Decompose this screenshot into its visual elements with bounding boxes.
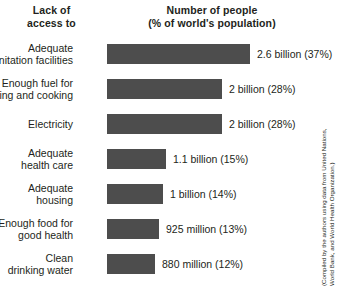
chart-row: Clean drinking water 880 million (12%) (0, 246, 330, 281)
row-label: Enough food for good health (0, 216, 73, 241)
bar-group: 925 million (13%) (107, 219, 247, 239)
bar-group: 1 billion (14%) (107, 184, 237, 204)
row-label: Adequate sanitation facilities (0, 41, 73, 66)
bar (107, 219, 159, 239)
chart-rows: Adequate sanitation facilities 2.6 billi… (0, 36, 330, 281)
row-label-line2: sanitation facilities (0, 54, 73, 66)
row-label-line1: Adequate (28, 41, 73, 53)
row-label-line1: Adequate (28, 181, 73, 193)
value-column-header: Number of people (% of world's populatio… (107, 4, 317, 30)
category-header-line2: access to (27, 17, 76, 29)
row-label: Adequate health care (0, 146, 73, 171)
chart-row: Enough fuel for heating and cooking 2 bi… (0, 71, 330, 106)
bar-value-label: 1 billion (14%) (170, 188, 237, 200)
bar (107, 254, 155, 274)
row-label: Enough fuel for heating and cooking (0, 76, 73, 101)
bar-value-label: 925 million (13%) (166, 223, 247, 235)
bar-value-label: 2 billion (28%) (229, 118, 296, 130)
row-label-line2: housing (36, 194, 73, 206)
bar-group: 2.6 billion (37%) (107, 44, 332, 64)
category-header-line1: Lack of (33, 4, 70, 16)
row-label: Clean drinking water (0, 251, 73, 276)
bar (107, 184, 163, 204)
row-label-line1: Electricity (28, 117, 73, 129)
bar-value-label: 880 million (12%) (162, 258, 243, 270)
chart-header: Lack of access to Number of people (% of… (0, 4, 330, 36)
bar (107, 114, 222, 134)
bar-group: 2 billion (28%) (107, 114, 296, 134)
bar-group: 1.1 billion (15%) (107, 149, 248, 169)
bar (107, 149, 166, 169)
row-label-line1: Enough fuel for (2, 76, 73, 88)
value-header-line1: Number of people (167, 4, 258, 16)
chart-row: Enough food for good health 925 million … (0, 211, 330, 246)
chart-row: Adequate housing 1 billion (14%) (0, 176, 330, 211)
bar-value-label: 1.1 billion (15%) (173, 153, 248, 165)
value-header-line2: (% of world's population) (107, 17, 317, 30)
bar-group: 2 billion (28%) (107, 79, 296, 99)
bar-chart-figure: Lack of access to Number of people (% of… (0, 0, 359, 290)
chart-row: Adequate sanitation facilities 2.6 billi… (0, 36, 330, 71)
row-label-line1: Enough food for (0, 216, 73, 228)
row-label-line2: health care (21, 159, 73, 171)
row-label-line2: drinking water (8, 264, 73, 276)
bar (107, 79, 222, 99)
source-note-line2: World Bank, and World Health Organizatio… (328, 106, 336, 286)
bar (107, 44, 250, 64)
source-note: (Compiled by the authors using data from… (336, 106, 358, 286)
row-label-line2: good health (18, 229, 73, 241)
row-label: Adequate housing (0, 181, 73, 206)
row-label-line1: Adequate (28, 146, 73, 158)
source-note-line1: (Compiled by the authors using data from… (320, 106, 328, 286)
chart-row: Adequate health care 1.1 billion (15%) (0, 141, 330, 176)
bar-value-label: 2.6 billion (37%) (257, 48, 332, 60)
row-label: Electricity (0, 117, 73, 130)
bar-group: 880 million (12%) (107, 254, 243, 274)
row-label-line2: heating and cooking (0, 89, 73, 101)
bar-value-label: 2 billion (28%) (229, 83, 296, 95)
source-note-text: (Compiled by the authors using data from… (320, 106, 336, 286)
category-column-header: Lack of access to (0, 4, 103, 30)
row-label-line1: Clean (46, 251, 73, 263)
chart-row: Electricity 2 billion (28%) (0, 106, 330, 141)
